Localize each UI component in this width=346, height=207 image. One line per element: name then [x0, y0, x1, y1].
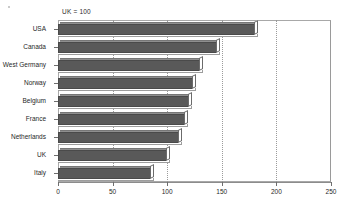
x-tick-label-50: 50 [109, 188, 116, 195]
category-label-uk: UK [37, 152, 46, 159]
category-label-usa: USA [33, 26, 46, 33]
bar-end-cap [166, 146, 170, 161]
category-label-france: France [26, 116, 46, 123]
bar-face [58, 24, 255, 35]
bar-end-cap [188, 92, 192, 107]
bar-belgium [58, 96, 189, 107]
bar-netherlands [58, 132, 179, 143]
category-label-belgium: Belgium [23, 98, 46, 105]
bar-france [58, 114, 185, 125]
bar-end-cap [199, 56, 203, 71]
bar-face [58, 114, 185, 125]
bar-chart: UK = 100 USACanadaWest GermanyNorwayBelg… [0, 0, 346, 207]
category-label-italy: Italy [34, 170, 46, 177]
x-tick-0 [58, 182, 59, 186]
x-tick-label-150: 150 [216, 188, 227, 195]
bar-end-cap [216, 38, 220, 53]
bar-end-cap [184, 110, 188, 125]
bar-italy [58, 168, 151, 179]
x-tick-label-100: 100 [162, 188, 173, 195]
bar-west-germany [58, 60, 200, 71]
bar-top-face [60, 112, 185, 114]
bar-uk [58, 150, 167, 161]
bar-top-face [60, 40, 217, 42]
x-tick-100 [167, 182, 168, 186]
bar-face [58, 150, 167, 161]
bar-face [58, 168, 151, 179]
bar-top-face [60, 22, 255, 24]
bar-top-face [60, 148, 167, 150]
gridline-150 [222, 20, 223, 182]
category-label-canada: Canada [23, 44, 46, 51]
bar-end-cap [150, 164, 154, 179]
x-tick-250 [331, 182, 332, 186]
bar-face [58, 42, 217, 53]
bar-face [58, 132, 179, 143]
bar-top-face [60, 76, 193, 78]
x-tick-label-250: 250 [326, 188, 337, 195]
bar-top-face [60, 58, 200, 60]
x-tick-50 [113, 182, 114, 186]
bar-top-face [60, 166, 151, 168]
bar-top-face [60, 130, 179, 132]
x-tick-label-200: 200 [271, 188, 282, 195]
category-label-netherlands: Netherlands [11, 134, 46, 141]
bar-face [58, 60, 200, 71]
bar-top-face [60, 94, 189, 96]
gridline-200 [276, 20, 277, 182]
bar-face [58, 78, 193, 89]
chart-annotation: UK = 100 [62, 8, 91, 15]
bar-canada [58, 42, 217, 53]
x-tick-label-0: 0 [56, 188, 60, 195]
x-tick-200 [276, 182, 277, 186]
bar-end-cap [192, 74, 196, 89]
category-label-norway: Norway [24, 80, 46, 87]
bar-end-cap [178, 128, 182, 143]
category-axis-labels: USACanadaWest GermanyNorwayBelgiumFrance… [0, 0, 54, 207]
bar-usa [58, 24, 255, 35]
bar-end-cap [254, 20, 258, 35]
x-tick-150 [222, 182, 223, 186]
bar-norway [58, 78, 193, 89]
x-axis-line [58, 182, 331, 183]
bar-face [58, 96, 189, 107]
category-label-west-germany: West Germany [3, 62, 46, 69]
